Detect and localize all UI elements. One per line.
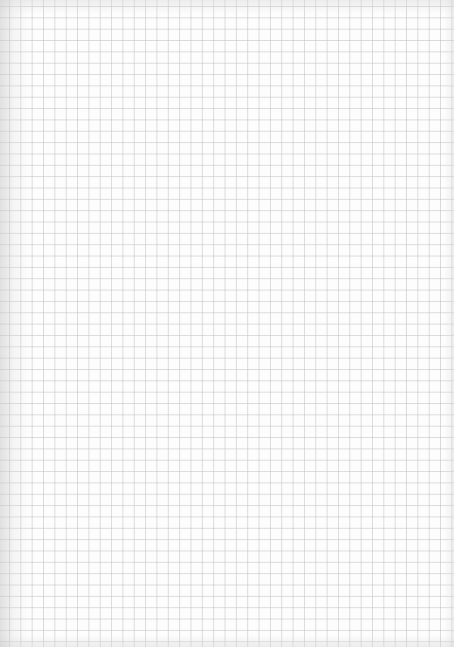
edge-shadow [0, 0, 454, 647]
grid-paper-sheet: Blank graph paper [0, 0, 454, 647]
